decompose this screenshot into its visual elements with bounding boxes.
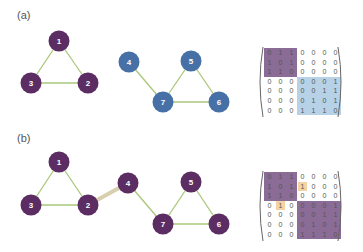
node-5: 5 [181,172,202,193]
node-label: 7 [161,220,166,229]
node-7: 7 [153,214,174,235]
node-label: 6 [217,220,222,229]
node-label: 1 [57,158,62,167]
node-2: 2 [78,195,99,216]
node-label: 3 [29,201,34,210]
node-label: 4 [126,179,131,188]
node-1: 1 [49,152,70,173]
node-4: 4 [118,173,139,194]
node-label: 2 [86,201,91,210]
node-6: 6 [209,214,230,235]
node-label: 5 [189,178,194,187]
adjacency-matrix-a: 0110000101000011000000000001000001100001… [263,47,343,117]
matrix-brackets [257,170,343,242]
matrix-brackets [257,46,343,118]
adjacency-matrix-b: 0110000101100011000000100001000001100001… [263,171,343,241]
node-3: 3 [21,195,42,216]
